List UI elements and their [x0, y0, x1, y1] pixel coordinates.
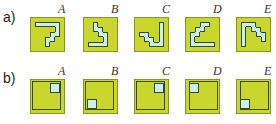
small-blue-square: [189, 83, 199, 93]
option-box-b-A[interactable]: [30, 79, 65, 114]
option-box-b-D[interactable]: [185, 79, 220, 114]
option-box-b-C[interactable]: [134, 79, 169, 114]
small-blue-square: [154, 83, 164, 93]
shape-cell: [55, 32, 60, 37]
shape-cell: [261, 37, 266, 42]
option-box-a-C[interactable]: [134, 17, 169, 52]
option-letter-a-E: E: [264, 2, 271, 17]
small-blue-square: [240, 99, 250, 109]
option-letter-a-A: A: [58, 2, 65, 17]
option-box-b-E[interactable]: [236, 79, 271, 114]
row-label-a: a): [3, 9, 15, 25]
shape-cell: [45, 42, 50, 47]
option-box-a-B[interactable]: [83, 17, 118, 52]
row-label-b: b): [3, 70, 15, 86]
shape-cell: [241, 42, 246, 47]
option-letter-a-D: D: [213, 2, 222, 17]
option-letter-a-B: B: [111, 2, 118, 17]
option-letter-b-C: C: [162, 64, 170, 79]
option-box-a-A[interactable]: [30, 17, 65, 52]
option-box-a-E[interactable]: [236, 17, 271, 52]
shape-cell: [98, 42, 103, 47]
shape-cell: [195, 32, 200, 37]
shape-cell: [200, 27, 205, 32]
option-letter-b-D: D: [213, 64, 222, 79]
small-blue-square: [50, 83, 60, 93]
option-box-b-B[interactable]: [83, 79, 118, 114]
small-blue-square: [87, 99, 97, 109]
option-letter-b-A: A: [58, 64, 65, 79]
option-letter-b-E: E: [264, 64, 271, 79]
shape-cell: [205, 22, 210, 27]
shape-cell: [159, 42, 164, 47]
shape-cell: [154, 42, 159, 47]
shape-cell: [103, 42, 108, 47]
option-letter-b-B: B: [111, 64, 118, 79]
shape-cell: [50, 37, 55, 42]
option-box-a-D[interactable]: [185, 17, 220, 52]
shape-cell: [210, 42, 215, 47]
option-letter-a-C: C: [162, 2, 170, 17]
